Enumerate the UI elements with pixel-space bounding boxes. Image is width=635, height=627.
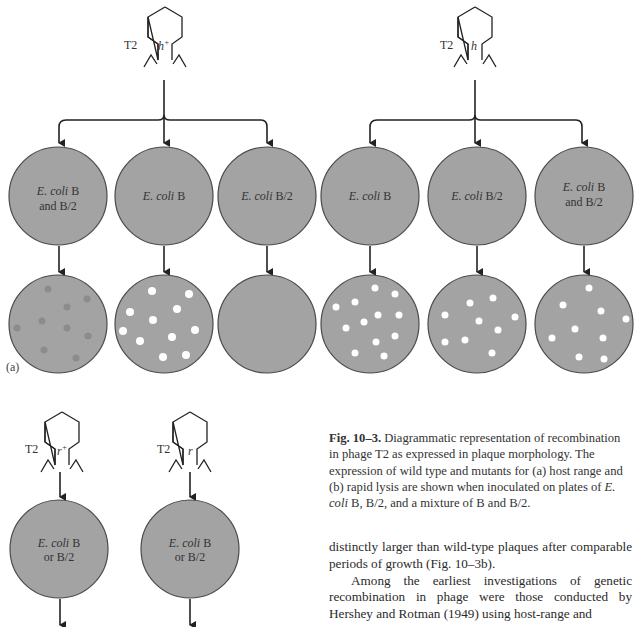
result-plate-clear-plaques bbox=[321, 275, 419, 373]
svg-text:E. coli B: E. coli B bbox=[348, 189, 391, 203]
paragraph: Among the earliest investigations of gen… bbox=[329, 573, 632, 623]
paragraph: distinctly larger than wild-type plaques… bbox=[329, 539, 632, 573]
plate-ecoli-b-left: E. coli B bbox=[115, 147, 213, 245]
result-plate-clear-plaques bbox=[535, 275, 633, 373]
svg-text:E. coli B/2: E. coli B/2 bbox=[450, 189, 503, 203]
result-plate-turbid bbox=[9, 275, 107, 373]
body-text: distinctly larger than wild-type plaques… bbox=[329, 539, 632, 623]
phage-label-t2: T2 bbox=[440, 38, 453, 52]
result-plate-clear-plaques bbox=[115, 275, 213, 373]
genotype-label: h bbox=[471, 39, 477, 53]
plate-ecoli-b2-left: E. coli B/2 bbox=[218, 147, 316, 245]
svg-text:E. coli B: E. coli B bbox=[36, 184, 79, 198]
figure-diagram: T2 h+ E. coli B and B/2 E. coli B E. col… bbox=[0, 0, 635, 627]
svg-text:E. coli B: E. coli B bbox=[142, 189, 185, 203]
plate-ecoli-b2-right: E. coli B/2 bbox=[428, 147, 526, 245]
genotype-label: h+ bbox=[158, 38, 169, 53]
svg-text:and B/2: and B/2 bbox=[39, 199, 77, 213]
figure-number: Fig. 10–3. bbox=[329, 431, 381, 445]
caption-text-end: B, B/2, and a mixture of B and B/2. bbox=[348, 496, 531, 510]
result-plate-no-plaques bbox=[218, 275, 316, 373]
svg-text:E. coli B: E. coli B bbox=[37, 536, 80, 550]
phage-label-t2: T2 bbox=[25, 442, 38, 456]
phage-h-plus: T2 h+ bbox=[124, 7, 186, 67]
svg-text:or B/2: or B/2 bbox=[44, 550, 74, 564]
plate-ecoli-b-or-b2: E. coli B or B/2 bbox=[141, 500, 239, 598]
phage-label-t2: T2 bbox=[157, 442, 170, 456]
svg-text:E. coli B: E. coli B bbox=[168, 536, 211, 550]
svg-text:or B/2: or B/2 bbox=[175, 550, 205, 564]
phage-h: T2 h bbox=[440, 7, 496, 67]
plate-ecoli-b-right: E. coli B bbox=[321, 147, 419, 245]
svg-text:E. coli B/2: E. coli B/2 bbox=[240, 189, 293, 203]
phage-label-t2: T2 bbox=[124, 38, 137, 52]
phage-r: T2 r bbox=[157, 412, 211, 472]
panel-label-a: (a) bbox=[6, 360, 19, 375]
figure-caption: Fig. 10–3. Diagrammatic representation o… bbox=[329, 430, 629, 511]
plate-ecoli-b-and-b2-left: E. coli B and B/2 bbox=[9, 147, 107, 245]
genotype-label: r+ bbox=[57, 443, 67, 458]
svg-text:and B/2: and B/2 bbox=[565, 195, 603, 209]
plate-ecoli-b-and-b2-right: E. coli B and B/2 bbox=[535, 147, 633, 245]
svg-text:E. coli B: E. coli B bbox=[562, 180, 605, 194]
genotype-label: r bbox=[188, 444, 193, 458]
result-plate-clear-plaques bbox=[428, 275, 526, 373]
phage-r-plus: T2 r+ bbox=[25, 412, 83, 472]
plate-ecoli-b-or-b2: E. coli B or B/2 bbox=[10, 500, 108, 598]
